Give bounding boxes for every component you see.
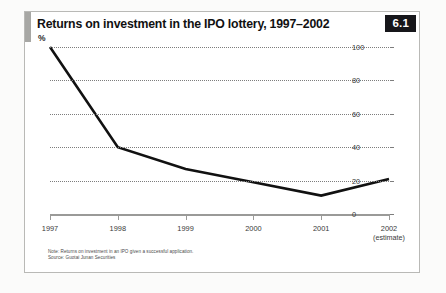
gridline [50,47,389,48]
y-axis-tick-label: 20 [352,176,380,185]
footnotes: Note: Returns on investment in an IPO gi… [48,249,378,261]
x-axis-tick [50,214,51,220]
y-axis-tick [390,214,394,215]
y-axis-tick [390,181,394,182]
x-axis-tick-label: 1997 [20,224,80,233]
x-axis-tick-label: 2002 [359,224,419,233]
x-axis-line [50,214,390,216]
x-axis-tick-label: 1998 [88,224,148,233]
y-axis-tick-label: 100 [352,43,380,52]
footnote-source: Source: Guotai Junan Securities [48,255,378,261]
x-axis-tick [186,214,187,220]
plot-area [50,47,389,214]
y-axis-tick [390,147,394,148]
gridline [50,114,389,115]
figure-number-badge: 6.1 [385,15,416,32]
y-axis-tick [390,80,394,81]
x-axis-tick [118,214,119,220]
title-accent-bar [25,12,31,42]
x-axis-tick-label: 2000 [223,224,283,233]
x-axis-tick-label: 1999 [156,224,216,233]
x-axis-tick [321,214,322,220]
y-axis-tick-label: 0 [352,210,380,219]
gridline [50,80,389,81]
gridline [50,181,389,182]
x-axis-tick-label: 2001 [291,224,351,233]
y-axis-tick-label: 80 [352,76,380,85]
series-line [50,47,389,214]
figure-page: 6.1 Returns on investment in the IPO lot… [0,0,446,293]
y-axis-unit-label: % [38,33,46,43]
gridline [50,147,389,148]
y-axis-tick-label: 60 [352,109,380,118]
x-axis-tick [253,214,254,220]
y-axis-tick-label: 40 [352,143,380,152]
chart-title: Returns on investment in the IPO lottery… [37,17,367,31]
x-axis-tick-sublabel: (estimate) [359,233,419,242]
y-axis-tick [390,47,394,48]
y-axis-tick [390,114,394,115]
x-axis-tick [389,214,390,220]
